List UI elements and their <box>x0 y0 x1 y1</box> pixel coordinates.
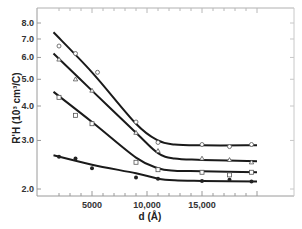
marker-filled-circle <box>74 157 78 161</box>
plot-frame <box>37 8 294 196</box>
marker-filled-circle <box>200 179 204 183</box>
marker-filled-circle <box>228 178 232 182</box>
marker-filled-circle <box>57 155 61 159</box>
marker-open-circle <box>74 52 78 56</box>
marker-open-circle <box>156 140 160 144</box>
marker-open-circle <box>200 143 204 147</box>
x-tick-label: 15,000 <box>188 200 216 210</box>
marker-open-square <box>74 113 78 117</box>
marker-open-circle <box>57 44 61 48</box>
y-tick-label: 5.0 <box>21 74 34 84</box>
marker-filled-circle <box>134 176 138 180</box>
marker-open-square <box>200 170 204 174</box>
y-tick-label: 2.0 <box>21 184 34 194</box>
marker-open-circle <box>228 145 232 149</box>
x-tick-label: 10,000 <box>133 200 161 210</box>
y-tick-label: 6.0 <box>21 52 34 62</box>
marker-open-circle <box>134 120 138 124</box>
marker-open-square <box>57 95 61 99</box>
fit-line-curve-4 <box>54 155 258 181</box>
marker-open-triangle <box>200 156 204 160</box>
marker-open-square <box>228 173 232 177</box>
y-tick-label: 4.0 <box>21 101 34 111</box>
fit-curves <box>54 32 258 181</box>
y-tick-label: 7.0 <box>21 34 34 44</box>
marker-open-circle <box>250 143 254 147</box>
y-tick-label: 8.0 <box>21 18 34 28</box>
x-axis-title: d (Å) <box>139 210 162 222</box>
x-tick-label: 5000 <box>82 200 102 210</box>
marker-open-triangle <box>227 158 231 162</box>
y-tick-label: 3.0 <box>21 135 34 145</box>
fit-line-curve-1 <box>54 32 258 145</box>
chart: 500010,00015,000 2.03.04.05.06.07.08.0 d… <box>0 0 302 229</box>
y-axis-title: R'H (10³ cm³/C) <box>11 72 22 143</box>
marker-filled-circle <box>250 179 254 183</box>
marker-open-square <box>250 170 254 174</box>
marker-open-circle <box>96 70 100 74</box>
marker-open-square <box>134 160 138 164</box>
marker-filled-circle <box>90 166 94 170</box>
marker-open-triangle <box>156 149 160 153</box>
marker-open-square <box>156 168 160 172</box>
marker-open-square <box>90 122 94 126</box>
marker-filled-circle <box>156 177 160 181</box>
